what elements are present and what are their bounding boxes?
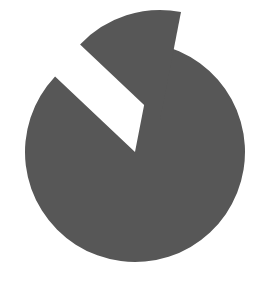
pie-chart [0, 0, 271, 286]
pie-slices [25, 10, 245, 262]
